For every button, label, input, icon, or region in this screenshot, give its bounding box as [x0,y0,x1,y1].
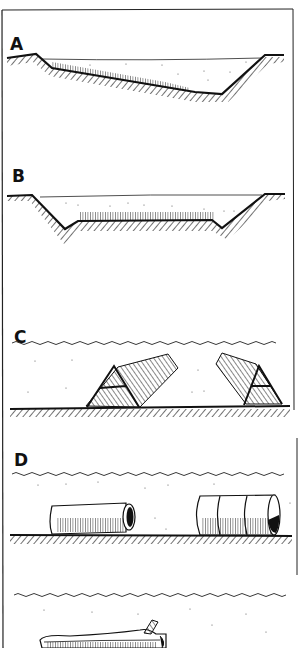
panel-c-label: C [14,327,26,347]
panel-b: B [7,166,285,244]
panel-a: A [7,34,284,102]
bottom-hatching [10,409,290,417]
water-specks [65,202,234,211]
diagram-canvas: A B C [0,0,300,648]
bottom-hatching [10,536,292,544]
brush-shelter-left [86,354,178,407]
panel-a-label: A [10,34,24,54]
vegetation [80,212,214,221]
water-surface-wave [12,473,284,476]
frame-border [2,9,297,648]
log-shelter [40,620,166,648]
panel-c: C [10,327,290,417]
water-surface-wave [14,594,286,597]
pipe-shelter [50,503,135,534]
panel-b-label: B [12,166,25,186]
soil-hatching [7,54,284,102]
brush-shelter-right [216,353,282,404]
branch-stub [144,620,158,634]
water-surface [40,195,262,197]
habitat-diagram-figure: A B C [0,0,300,648]
drum-shelter [197,495,281,535]
panel-e [14,594,286,648]
water-surface [42,58,262,60]
water-surface-wave [12,342,276,345]
panel-d-label: D [14,450,28,470]
panel-d: D [10,450,292,544]
bottom-line [10,406,290,409]
bottom-line [10,535,292,536]
